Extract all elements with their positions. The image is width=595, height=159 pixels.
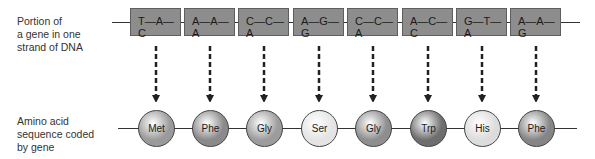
- dashed-arrow-down-icon: [478, 46, 486, 102]
- amino-acid-met: Met: [138, 110, 175, 147]
- amino-acid-ser: Ser: [301, 110, 338, 147]
- codon-text: A—A—G: [518, 15, 560, 39]
- dna-codon: A—C—C: [402, 8, 453, 36]
- codon-text: T—A—C: [138, 15, 180, 39]
- dna-codon: G—T—A: [456, 8, 507, 36]
- dashed-arrow-down-icon: [424, 46, 432, 102]
- codon-text: A—A—A: [192, 15, 234, 39]
- dna-codon: A—G—G: [293, 8, 344, 36]
- dashed-arrow-down-icon: [369, 46, 377, 102]
- codon-text: C—C—A: [246, 15, 288, 39]
- amino-acid-trp: Trp: [410, 110, 447, 147]
- amino-acid-gly: Gly: [246, 110, 283, 147]
- codon-text: C—C—A: [355, 15, 397, 39]
- amino-acid-gly: Gly: [355, 110, 392, 147]
- amino-acid-label: Amino acid sequence coded by gene: [17, 115, 94, 154]
- dashed-arrow-down-icon: [260, 46, 268, 102]
- amino-acid-chain-line: [118, 128, 577, 129]
- codon-text: G—T—A: [464, 15, 506, 39]
- codon-text: A—G—G: [301, 15, 343, 39]
- dna-codon: C—C—A: [238, 8, 289, 36]
- dashed-arrow-down-icon: [152, 46, 160, 102]
- codon-text: A—C—C: [410, 15, 452, 39]
- dna-codon: T—A—C: [130, 8, 181, 36]
- dna-label: Portion of a gene in one strand of DNA: [17, 15, 83, 54]
- dashed-arrow-down-icon: [315, 46, 323, 102]
- amino-acid-phe: Phe: [518, 110, 555, 147]
- dna-codon: A—A—A: [184, 8, 235, 36]
- dashed-arrow-down-icon: [532, 46, 540, 102]
- dna-codon: C—C—A: [347, 8, 398, 36]
- dna-codon: A—A—G: [510, 8, 561, 36]
- dashed-arrow-down-icon: [206, 46, 214, 102]
- amino-acid-phe: Phe: [192, 110, 229, 147]
- amino-acid-his: His: [464, 110, 501, 147]
